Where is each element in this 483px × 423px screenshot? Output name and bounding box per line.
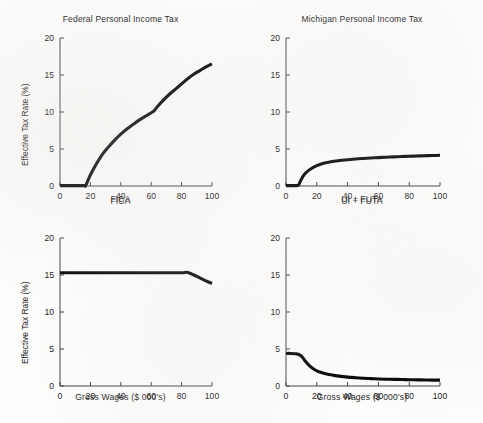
y-tick-label: 10 [44, 107, 54, 117]
y-tick-label: 20 [44, 33, 54, 43]
x-tick-label: 0 [58, 391, 63, 401]
panel-fica: FICA Effective Tax Rate (%) Gross Wages … [0, 216, 241, 423]
x-tick-label: 100 [433, 391, 448, 401]
data-curve [286, 353, 440, 380]
y-tick-label: 15 [44, 270, 54, 280]
x-tick-label: 0 [284, 391, 289, 401]
y-tick-label: 0 [49, 181, 54, 191]
x-tick-label: 60 [146, 391, 156, 401]
x-tick-label: 20 [312, 391, 322, 401]
data-curve [60, 272, 212, 283]
x-tick-label: 20 [86, 391, 96, 401]
x-tick-label: 80 [177, 391, 187, 401]
panel-federal-personal-income-tax: Federal Personal Income Tax Effective Ta… [0, 8, 241, 216]
x-tick-label: 40 [116, 391, 126, 401]
plot-area-michigan: 02040608010005101520 [241, 8, 483, 216]
figure-canvas: Federal Personal Income Tax Effective Ta… [0, 0, 483, 423]
x-tick-label: 60 [374, 391, 384, 401]
y-tick-label: 5 [275, 344, 280, 354]
data-curve [60, 64, 212, 186]
y-tick-label: 10 [44, 307, 54, 317]
y-tick-label: 15 [270, 70, 280, 80]
y-tick-label: 15 [44, 70, 54, 80]
y-tick-label: 0 [275, 381, 280, 391]
y-tick-label: 20 [270, 233, 280, 243]
y-tick-label: 10 [270, 107, 280, 117]
plot-area-federal: 02040608010005101520 [0, 8, 241, 216]
y-tick-label: 20 [270, 33, 280, 43]
y-tick-label: 5 [275, 144, 280, 154]
y-tick-label: 10 [270, 307, 280, 317]
plot-area-fica: 02040608010005101520 [0, 216, 241, 423]
y-tick-label: 20 [44, 233, 54, 243]
panel-ui-futa: UI + FUTA Gross Wages ($ 000's) 02040608… [241, 216, 483, 423]
panel-title: UI + FUTA [241, 196, 483, 206]
y-tick-label: 15 [270, 270, 280, 280]
panel-title: FICA [0, 196, 241, 206]
y-tick-label: 5 [49, 344, 54, 354]
x-tick-label: 80 [404, 391, 414, 401]
data-curve [286, 155, 440, 185]
plot-area-ui-futa: 02040608010005101520 [241, 216, 483, 423]
x-tick-label: 40 [343, 391, 353, 401]
panel-michigan-personal-income-tax: Michigan Personal Income Tax UI + FUTA 0… [241, 8, 483, 216]
y-tick-label: 5 [49, 144, 54, 154]
x-tick-label: 100 [205, 391, 220, 401]
y-tick-label: 0 [275, 181, 280, 191]
y-tick-label: 0 [49, 381, 54, 391]
